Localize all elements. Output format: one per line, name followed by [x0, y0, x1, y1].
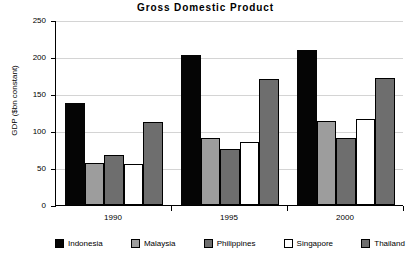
legend-swatch-icon: [284, 239, 293, 248]
bar-series-group: [56, 21, 403, 205]
legend-item-indonesia[interactable]: Indonesia: [55, 239, 103, 248]
legend-item-thailand[interactable]: Thailand: [361, 239, 405, 248]
legend-label: Philippines: [217, 239, 256, 248]
legend-label: Thailand: [374, 239, 405, 248]
y-tick-label: 100: [0, 127, 46, 136]
legend-label: Singapore: [297, 239, 333, 248]
legend-item-philippines[interactable]: Philippines: [204, 239, 256, 248]
bar-thailand-2000: [375, 78, 395, 205]
bar-malaysia-1995: [201, 138, 221, 205]
y-tick-label: 0: [0, 201, 46, 210]
y-tick-label: 200: [0, 53, 46, 62]
bar-philippines-2000: [336, 138, 356, 205]
legend-swatch-icon: [131, 239, 140, 248]
legend-label: Malaysia: [144, 239, 176, 248]
bar-indonesia-2000: [297, 50, 317, 205]
chart-title: Gross Domestic Product: [0, 2, 411, 13]
legend-swatch-icon: [55, 239, 64, 248]
bar-malaysia-1990: [85, 163, 105, 205]
x-tick-label-1990: 1990: [55, 213, 171, 222]
bar-singapore-2000: [356, 119, 376, 205]
legend-swatch-icon: [204, 239, 213, 248]
bar-philippines-1995: [220, 149, 240, 205]
bar-singapore-1990: [124, 164, 144, 205]
x-axis-separator: [171, 206, 172, 211]
bar-malaysia-2000: [317, 121, 337, 205]
x-tick-label-2000: 2000: [287, 213, 403, 222]
bar-thailand-1990: [143, 122, 163, 205]
bar-indonesia-1995: [181, 55, 201, 205]
legend-item-singapore[interactable]: Singapore: [284, 239, 333, 248]
legend-label: Indonesia: [68, 239, 103, 248]
bar-singapore-1995: [240, 142, 260, 205]
y-tick-mark: [51, 206, 56, 207]
x-tick-label-1995: 1995: [171, 213, 287, 222]
plot-area: [55, 21, 403, 206]
y-tick-label: 150: [0, 90, 46, 99]
bar-indonesia-1990: [65, 103, 85, 205]
chart-legend: IndonesiaMalaysiaPhilippinesSingaporeTha…: [55, 236, 405, 250]
y-axis-label: GDP ($bn constant): [10, 31, 19, 171]
legend-item-malaysia[interactable]: Malaysia: [131, 239, 176, 248]
bar-philippines-1990: [104, 155, 124, 205]
x-axis-separator: [287, 206, 288, 211]
bar-thailand-1995: [259, 79, 279, 205]
legend-swatch-icon: [361, 239, 370, 248]
x-axis-separator-end: [403, 206, 404, 211]
gdp-bar-chart: Gross Domestic Product GDP ($bn constant…: [0, 0, 411, 260]
y-tick-label: 250: [0, 16, 46, 25]
y-tick-label: 50: [0, 164, 46, 173]
